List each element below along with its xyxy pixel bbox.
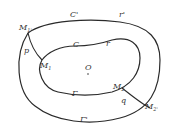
origin-dot: [87, 73, 89, 75]
label-gamma-prime: Γ': [79, 115, 88, 124]
arc-p: [28, 33, 42, 60]
label-m1-prime: M1': [18, 23, 32, 33]
label-r-prime: r': [119, 10, 125, 19]
label-gamma: Γ: [71, 89, 78, 98]
label-p: p: [24, 46, 29, 55]
annulus-diagram: C' r' Γ' C r Γ O M1' p M1 M2 q M2': [0, 0, 179, 135]
label-m1: M1: [39, 61, 51, 71]
label-m2: M2: [112, 82, 124, 92]
label-origin: O: [85, 63, 92, 72]
label-c: C: [73, 40, 79, 49]
label-c-prime: C': [70, 10, 78, 19]
label-q: q: [121, 96, 126, 105]
label-m2-prime: M2': [144, 102, 158, 112]
